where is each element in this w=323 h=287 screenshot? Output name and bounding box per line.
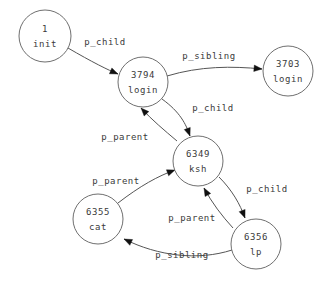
edge-login1-to-login2: [167, 67, 262, 76]
arrowhead-login1-to-login2: [254, 65, 262, 71]
nodes-layer: 1init3794login3703login6349ksh6355cat635…: [19, 10, 313, 269]
node-name-ksh: ksh: [189, 164, 207, 174]
arrowhead-lp-to-cat: [124, 239, 133, 245]
node-circle-ksh[interactable]: [173, 136, 223, 186]
node-circle-login2[interactable]: [263, 46, 313, 96]
node-pid-ksh: 6349: [186, 149, 210, 159]
node-circle-lp[interactable]: [231, 219, 281, 269]
node-lp[interactable]: 6356lp: [231, 219, 281, 269]
node-ksh[interactable]: 6349ksh: [173, 136, 223, 186]
arrowhead-lp-to-ksh: [204, 188, 211, 197]
node-name-init: init: [33, 39, 57, 49]
edge-label-ksh-to-login1: p_parent: [101, 132, 148, 142]
node-pid-init: 1: [42, 24, 48, 34]
edge-label-login1-to-ksh: p_child: [192, 103, 233, 113]
node-name-login1: login: [128, 85, 158, 95]
node-login1[interactable]: 3794login: [118, 57, 168, 107]
edge-label-login1-to-login2: p_sibling: [182, 51, 235, 61]
arrowhead-cat-to-ksh: [166, 170, 175, 176]
edge-label-init-to-login1: p_child: [84, 37, 125, 47]
node-circle-init[interactable]: [19, 10, 71, 62]
node-pid-lp: 6356: [244, 232, 268, 242]
node-pid-login1: 3794: [131, 70, 155, 80]
arrowhead-login1-to-ksh: [184, 127, 190, 136]
edge-label-ksh-to-lp: p_child: [246, 184, 287, 194]
node-pid-login2: 3703: [276, 59, 300, 69]
edge-label-cat-to-ksh: p_parent: [92, 176, 139, 186]
node-circle-login1[interactable]: [118, 57, 168, 107]
node-name-login2: login: [273, 74, 303, 84]
node-name-lp: lp: [250, 247, 262, 257]
node-cat[interactable]: 6355cat: [73, 194, 123, 244]
node-name-cat: cat: [89, 222, 107, 232]
node-circle-cat[interactable]: [73, 194, 123, 244]
edge-label-lp-to-cat: p_sibling: [155, 250, 208, 260]
arrowhead-init-to-login1: [109, 68, 118, 74]
node-login2[interactable]: 3703login: [263, 46, 313, 96]
node-pid-cat: 6355: [86, 207, 110, 217]
node-init[interactable]: 1init: [19, 10, 71, 62]
edge-label-lp-to-ksh: p_parent: [168, 213, 215, 223]
graph-canvas: p_childp_siblingp_childp_parentp_parentp…: [0, 0, 323, 287]
arrowhead-ksh-to-lp: [239, 209, 245, 218]
process-tree-diagram: p_childp_siblingp_childp_parentp_parentp…: [0, 0, 323, 287]
edge-init-to-login1: [68, 48, 118, 74]
